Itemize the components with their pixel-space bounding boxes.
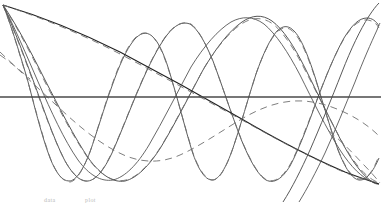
- caption-strip: data plot: [0, 187, 381, 203]
- chart-figure: data plot: [0, 0, 381, 203]
- caption-fragment-right: plot: [85, 197, 96, 203]
- curve-mode-1-dashed: [3, 5, 379, 183]
- plot-canvas: [0, 0, 381, 203]
- curve-rising-tail: [283, 3, 379, 202]
- caption-fragment-left: data: [44, 197, 56, 203]
